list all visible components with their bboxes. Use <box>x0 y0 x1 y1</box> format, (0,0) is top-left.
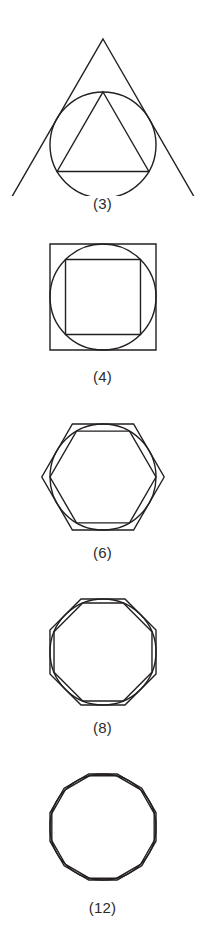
outer-polygon-3 <box>11 39 195 196</box>
figure-panel-8: (8) <box>0 570 205 745</box>
polygon-diagram-12 <box>0 745 205 905</box>
figure-panel-6: (6) <box>0 395 205 570</box>
polygon-diagram-6 <box>0 395 205 550</box>
figure-caption-12: (12) <box>0 900 205 915</box>
inner-polygon-8 <box>54 603 152 701</box>
circle-3 <box>50 92 156 196</box>
figure-panel-4: (4) <box>0 220 205 395</box>
figure-panel-3: (3) <box>0 0 205 220</box>
figure-caption-6: (6) <box>0 545 205 560</box>
circle-8 <box>50 599 156 705</box>
polygon-diagram-8 <box>0 570 205 725</box>
figure-caption-3: (3) <box>0 196 205 211</box>
outer-polygon-6 <box>42 424 164 530</box>
polygon-diagram-4 <box>0 220 205 375</box>
inner-polygon-4 <box>66 260 141 335</box>
circle-6 <box>50 424 156 530</box>
figure-caption-4: (4) <box>0 369 205 384</box>
polygon-diagram-3 <box>0 0 205 196</box>
inner-polygon-12 <box>52 776 154 878</box>
inner-polygon-6 <box>50 431 156 523</box>
figure-caption-8: (8) <box>0 720 205 735</box>
figure-stack: (3) (4) (6) (8) (12) <box>0 0 205 935</box>
inner-polygon-3 <box>57 92 149 172</box>
figure-panel-12: (12) <box>0 745 205 935</box>
